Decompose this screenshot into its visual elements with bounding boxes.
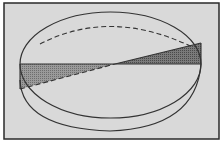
ellipse-planes-diagram <box>0 0 223 143</box>
